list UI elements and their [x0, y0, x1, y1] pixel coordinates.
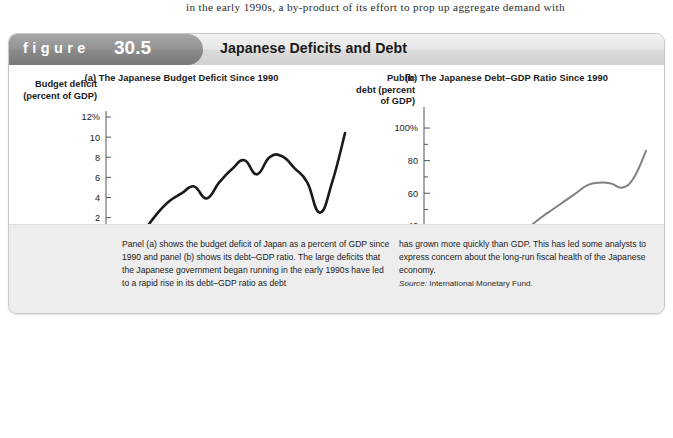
figure-container: figure 30.5 Japanese Deficits and Debt (…: [8, 33, 665, 314]
panel-b-y-axis-label: Public: [387, 73, 415, 83]
figure-number: 30.5: [114, 37, 151, 59]
panel-b-y-tick-label: 100%: [395, 123, 419, 133]
figure-source-line: Source: International Monetary Fund.: [399, 278, 661, 291]
figure-caption-area: Panel (a) shows the budget deficit of Ja…: [9, 224, 664, 313]
caption-column-left: Panel (a) shows the budget deficit of Ja…: [122, 238, 390, 290]
panel-a-y-tick-label: 6: [95, 173, 100, 183]
panel-a-y-tick-label: 12%: [82, 112, 100, 122]
panel-a-y-tick-label: 10: [90, 133, 100, 143]
source-text: International Monetary Fund.: [429, 279, 532, 288]
figure-label: figure: [23, 40, 90, 56]
panel-a-y-tick-label: 4: [95, 193, 100, 203]
figure-page: in the early 1990s, a by-product of its …: [0, 0, 673, 438]
panel-a-y-axis-label: Budget deficit: [35, 79, 97, 89]
figure-header-bar: figure 30.5 Japanese Deficits and Debt: [9, 34, 664, 65]
panel-a-y-axis-label: (percent of GDP): [23, 91, 97, 101]
panel-b-y-tick-label: 80: [408, 156, 418, 166]
caption-right-text: has grown more quickly than GDP. This ha…: [399, 238, 661, 277]
panel-b-y-axis-label: of GDP): [380, 96, 415, 106]
panel-a-y-tick-label: 2: [95, 213, 100, 223]
running-body-text: in the early 1990s, a by-product of its …: [186, 1, 669, 14]
panel-b-y-tick-label: 60: [408, 189, 418, 199]
caption-column-right: has grown more quickly than GDP. This ha…: [399, 238, 661, 291]
panel-b-y-axis-label: debt (percent: [356, 85, 415, 95]
panel-a-y-tick-label: 8: [95, 153, 100, 163]
figure-title: Japanese Deficits and Debt: [220, 40, 407, 56]
source-label: Source:: [399, 279, 427, 288]
